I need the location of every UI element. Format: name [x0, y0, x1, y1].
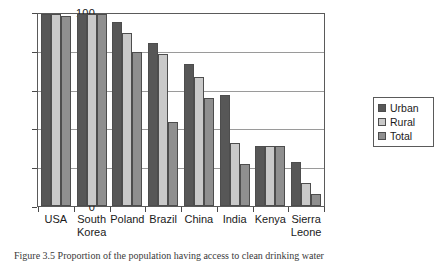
x-tick-mark: [181, 207, 182, 212]
x-axis-labels: USASouth KoreaPolandBrazilChinaIndiaKeny…: [38, 213, 324, 239]
x-axis-label: Poland: [110, 213, 146, 239]
figure-container: 020406080100 USASouth KoreaPolandBrazilC…: [0, 0, 438, 262]
bar-urban: [41, 14, 51, 206]
bar-urban: [291, 162, 301, 206]
bar-group: [288, 14, 324, 206]
bar-total: [168, 122, 178, 206]
bar-group: [38, 14, 74, 206]
x-tick-mark: [38, 207, 39, 212]
y-tick-mark: [32, 91, 37, 92]
y-tick-mark: [32, 52, 37, 53]
x-axis-label: China: [181, 213, 217, 239]
x-tick-mark: [253, 207, 254, 212]
bar-group: [181, 14, 217, 206]
bar-rural: [87, 14, 97, 206]
bar-rural: [122, 33, 132, 206]
bar-rural: [158, 54, 168, 206]
bar-groups: [38, 14, 324, 206]
x-tick-mark: [288, 207, 289, 212]
bar-total: [204, 98, 214, 206]
bar-total: [275, 146, 285, 206]
bar-total: [97, 14, 107, 206]
y-tick-mark: [32, 207, 37, 208]
x-tick-mark: [217, 207, 218, 212]
y-tick-mark: [32, 13, 37, 14]
y-tick-mark: [32, 129, 37, 130]
legend-item[interactable]: Total: [378, 129, 429, 143]
bar-rural: [51, 14, 61, 206]
bar-rural: [230, 143, 240, 206]
legend-swatch-urban: [378, 104, 386, 112]
x-axis-label: South Korea: [74, 213, 110, 239]
x-axis-label: Sierra Leone: [288, 213, 324, 239]
x-axis-label: USA: [38, 213, 74, 239]
bar-urban: [255, 146, 265, 206]
x-axis-label: Brazil: [145, 213, 181, 239]
x-axis-label: India: [217, 213, 253, 239]
figure-caption: Figure 3.5 Proportion of the population …: [14, 250, 424, 261]
x-tick-mark: [324, 207, 325, 212]
bar-rural: [265, 146, 275, 206]
bar-group: [74, 14, 110, 206]
bar-urban: [184, 64, 194, 206]
bar-total: [240, 164, 250, 206]
bar-total: [132, 52, 142, 206]
bar-urban: [220, 95, 230, 206]
bar-group: [110, 14, 146, 206]
x-tick-mark: [145, 207, 146, 212]
bar-total: [61, 16, 71, 206]
legend-item[interactable]: Urban: [378, 101, 429, 115]
legend-label: Urban: [390, 102, 419, 114]
bar-urban: [112, 22, 122, 206]
legend-swatch-total: [378, 132, 386, 140]
legend-label: Rural: [390, 116, 415, 128]
bar-rural: [301, 183, 311, 206]
x-axis-label: Kenya: [253, 213, 289, 239]
legend-swatch-rural: [378, 118, 386, 126]
y-tick-mark: [32, 168, 37, 169]
bar-group: [253, 14, 289, 206]
x-tick-mark: [74, 207, 75, 212]
x-tick-mark: [110, 207, 111, 212]
bar-urban: [148, 43, 158, 206]
chart-legend: UrbanRuralTotal: [373, 97, 434, 147]
bar-total: [311, 194, 321, 206]
legend-label: Total: [390, 130, 412, 142]
bar-rural: [194, 77, 204, 206]
bar-group: [145, 14, 181, 206]
bar-urban: [77, 14, 87, 206]
legend-item[interactable]: Rural: [378, 115, 429, 129]
bar-group: [217, 14, 253, 206]
